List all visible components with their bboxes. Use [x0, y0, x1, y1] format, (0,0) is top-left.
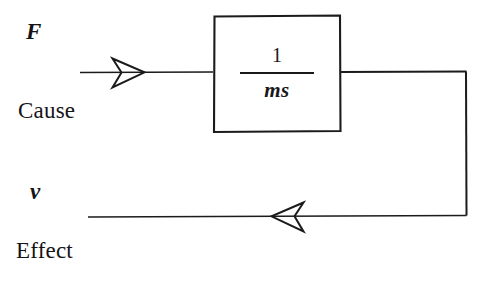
feedback-horizontal-line: [88, 216, 467, 218]
output-variable-label: v: [30, 180, 40, 203]
transfer-function-block: [214, 16, 341, 133]
output-signal-line: [340, 72, 467, 73]
feedback-vertical-line: [466, 72, 467, 216]
input-role-label: Cause: [18, 99, 75, 122]
input-variable-label: F: [26, 20, 41, 43]
figure-canvas: F Cause v Effect 1 ms: [0, 0, 490, 283]
block-diagram-graphic: [0, 0, 490, 283]
output-role-label: Effect: [16, 239, 73, 262]
